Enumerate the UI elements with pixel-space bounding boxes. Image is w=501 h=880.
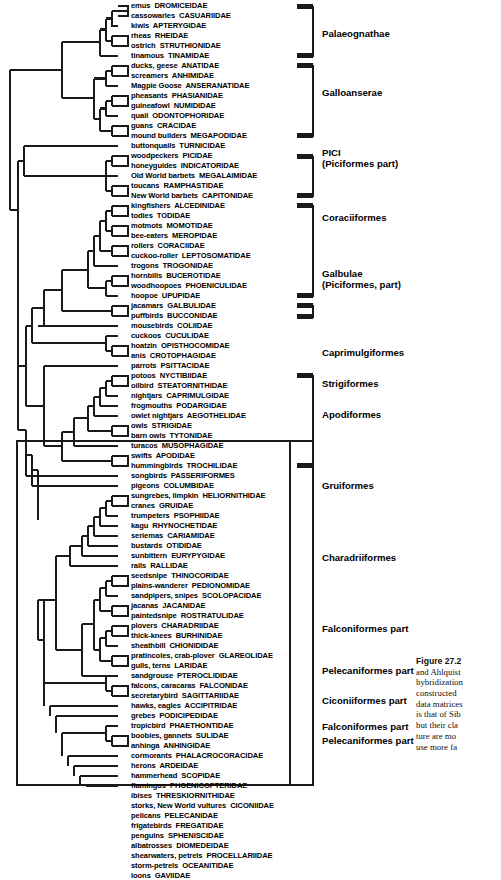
- clade-label: Coraciiformes: [322, 212, 387, 223]
- clade-label: Palaeognathae: [322, 28, 390, 39]
- tip-label: todies TODIDAE: [131, 212, 190, 220]
- tip-label: albatrosses DIOMEDEIDAE: [131, 842, 229, 850]
- tip-label: screamers ANHIMIDAE: [131, 72, 214, 80]
- tip-label: grebes PODICIPEDIDAE: [131, 712, 218, 720]
- tip-label: loons GAVIIDAE: [131, 872, 190, 880]
- tip-label: frigatebirds FREGATIDAE: [131, 822, 223, 830]
- tip-label: ostrich STRUTHIONIDAE: [131, 42, 221, 50]
- tip-label: penguins SPHENISCIDAE: [131, 832, 224, 840]
- tip-label: oilbird STEATORNITHIDAE: [131, 382, 227, 390]
- tip-label: Old World barbets MEGALAIMIDAE: [131, 172, 257, 180]
- tip-label: sunbittern EURYPYGIDAE: [131, 552, 225, 560]
- clade-label: Apodiformes: [322, 409, 381, 420]
- tip-label: puffbirds BUCCONIDAE: [131, 312, 218, 320]
- tip-label: shearwaters, petrels PROCELLARIIDAE: [131, 852, 273, 860]
- tip-label: tropicbird PHAETHONTIDAE: [131, 722, 234, 730]
- tip-label: pigeons COLUMBIDAE: [131, 482, 214, 490]
- clade-label: Strigiformes: [322, 378, 379, 389]
- tip-label: bee-eaters MEROPIDAE: [131, 232, 217, 240]
- tip-label: nightjars CAPRIMULGIDAE: [131, 392, 229, 400]
- clade-label: PICI (Piciformes part): [322, 147, 398, 169]
- tip-label: mousebirds COLIIDAE: [131, 322, 213, 330]
- clade-label: Galloanserae: [322, 87, 382, 98]
- tip-label: anhinga ANHINGIDAE: [131, 742, 210, 750]
- tip-label: ducks, geese ANATIDAE: [131, 62, 219, 70]
- tip-label: sandgrouse PTEROCLIDIDAE: [131, 672, 238, 680]
- tip-label: hummingbirds TROCHILIDAE: [131, 462, 237, 470]
- tip-label: cuckoos CUCULIDAE: [131, 332, 209, 340]
- tip-label: herons ARDEIDAE: [131, 762, 198, 770]
- tip-label: rollers CORACIIDAE: [131, 242, 205, 250]
- clade-label: Pelecaniformes part: [322, 665, 414, 676]
- tip-label: plovers CHARADRIIDAE: [131, 622, 219, 630]
- tip-label: motmots MOMOTIDAE: [131, 222, 213, 230]
- figure-caption: Figure 27.2 and Ahlquist hybridization c…: [416, 656, 501, 752]
- tip-label: storm-petrels OCEANITIDAE: [131, 862, 233, 870]
- tip-label: parrots PSITTACIDAE: [131, 362, 209, 370]
- clade-label: Falconiformes part: [322, 623, 408, 634]
- tip-label: cuckoo-roller LEPTOSOMATIDAE: [131, 252, 251, 260]
- tip-label: flamingos PHOENICOPTERIDAE: [131, 782, 247, 790]
- tip-label: rails RALLIDAE: [131, 562, 188, 570]
- tip-label: sandpipers, snipes SCOLOPACIDAE: [131, 592, 261, 600]
- tip-label: hawks, eagles ACCIPITRIDAE: [131, 702, 237, 710]
- tip-label: cranes GRUIDAE: [131, 502, 193, 510]
- tip-label: owlet nightjars AEGOTHELIDAE: [131, 412, 246, 420]
- tip-label: woodpeckers PICIDAE: [131, 152, 213, 160]
- tip-label: jacamars GALBULIDAE: [131, 302, 216, 310]
- tip-label: kagu RHYNOCHETIDAE: [131, 522, 217, 530]
- tip-label: cassowaries CASUARIIDAE: [131, 12, 231, 20]
- tip-label: plains-wanderer PEDIONOMIDAE: [131, 582, 250, 590]
- tip-label: pelicans PELECANIDAE: [131, 812, 218, 820]
- tip-label: ibises THRESKIORNITHIDAE: [131, 792, 235, 800]
- tip-label: quail ODONTOPHORIDAE: [131, 112, 224, 120]
- tip-label: trumpeters PSOPHIIDAE: [131, 512, 220, 520]
- clade-label: Ciconiiformes part: [322, 695, 407, 706]
- tip-label: secretarybird SAGITTARIIDAE: [131, 692, 239, 700]
- tip-label: rheas RHEIDAE: [131, 32, 188, 40]
- figure-number: Figure 27.2: [416, 656, 501, 667]
- tip-label: owls STRIGIDAE: [131, 422, 192, 430]
- tip-label: turacos MUSOPHAGIDAE: [131, 442, 223, 450]
- figure-caption-body: and Ahlquist hybridization constructed d…: [416, 667, 501, 753]
- tip-label: toucans RAMPHASTIDAE: [131, 182, 223, 190]
- tip-label: paintedsnipe ROSTRATULIDAE: [131, 612, 244, 620]
- tip-label: tinamous TINAMIDAE: [131, 52, 209, 60]
- clade-label: Falconiformes part: [322, 721, 408, 732]
- tip-label: seedsnipe THINOCORIDAE: [131, 572, 229, 580]
- tip-label: kingfishers ALCEDINIDAE: [131, 202, 225, 210]
- tip-label: cormorants PHALACROCORACIDAE: [131, 752, 263, 760]
- tip-label: hammerhead SCOPIDAE: [131, 772, 220, 780]
- clade-label: Caprimulgiformes: [322, 347, 404, 358]
- tip-label: New World barbets CAPITONIDAE: [131, 192, 253, 200]
- clade-label: Gruiformes: [322, 480, 374, 491]
- tip-label: swifts APODIDAE: [131, 452, 195, 460]
- tip-label: storks, New World vultures CICONIIDAE: [131, 802, 274, 810]
- tip-label: thick-knees BURHINIDAE: [131, 632, 222, 640]
- tip-label: hornbills BUCEROTIDAE: [131, 272, 221, 280]
- tip-label: songbirds PASSERIFORMES: [131, 472, 235, 480]
- tip-label: frogmouths PODARGIDAE: [131, 402, 227, 410]
- tip-label: potoos NYCTIBIIDAE: [131, 372, 207, 380]
- tip-label: buttonquails TURNICIDAE: [131, 142, 225, 150]
- tip-label: gulls, terns LARIDAE: [131, 662, 207, 670]
- tip-label: barn owls TYTONIDAE: [131, 432, 212, 440]
- tip-label: jacanas JACANIDAE: [131, 602, 206, 610]
- tip-label: hoatzin OPISTHOCOMIDAE: [131, 342, 230, 350]
- tip-label: Magpie Goose ANSERANATIDAE: [131, 82, 249, 90]
- tip-label: woodhoopoes PHOENICULIDAE: [131, 282, 247, 290]
- clade-label: Pelecaniformes part: [322, 735, 414, 746]
- tip-label: kiwis APTERYGIDAE: [131, 22, 206, 30]
- tip-label: sheathbill CHIONIDIDAE: [131, 642, 219, 650]
- tip-label: bustards OTIDIDAE: [131, 542, 202, 550]
- tip-label: falcons, caracaras FALCONIDAE: [131, 682, 248, 690]
- tip-label: pratincoles, crab-plover GLAREOLIDAE: [131, 652, 273, 660]
- tip-label: pheasants PHASIANIDAE: [131, 92, 223, 100]
- tip-label: guineafowl NUMIDIDAE: [131, 102, 216, 110]
- clade-label: Galbulae (Piciformes, part): [322, 268, 401, 290]
- tip-label: sungrebes, limpkin HELIORNITHIDAE: [131, 492, 266, 500]
- tip-label: anis CROTOPHAGIDAE: [131, 352, 216, 360]
- tip-label: guans CRACIDAE: [131, 122, 196, 130]
- tip-label: hoopoe UPUPIDAE: [131, 292, 200, 300]
